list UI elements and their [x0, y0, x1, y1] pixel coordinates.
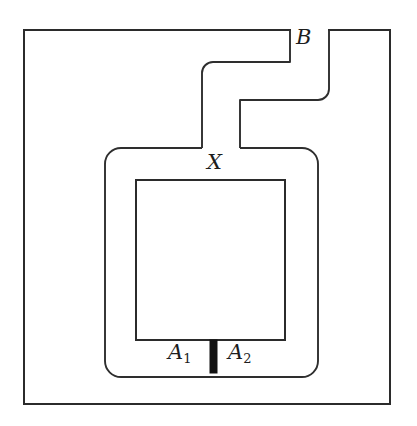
region-label-a1-text: A: [168, 340, 183, 364]
inner-rectangle-path: [136, 180, 285, 340]
figure-canvas: B X A1 A2: [0, 0, 417, 426]
region-label-b-text: B: [296, 25, 311, 49]
region-label-a2-text: A: [228, 340, 243, 364]
lower-arm-path: [240, 30, 329, 148]
diagram-svg: [0, 0, 417, 426]
region-label-a2: A2: [228, 342, 251, 363]
upper-arm-path: [202, 30, 290, 148]
region-label-b: B: [296, 27, 311, 48]
region-label-a1-subscript: 1: [183, 351, 191, 366]
outer-boundary-path: [24, 30, 390, 404]
region-label-a1: A1: [168, 342, 191, 363]
separating-bar: [210, 340, 217, 373]
region-label-x-text: X: [207, 150, 222, 174]
region-label-x: X: [207, 152, 222, 173]
region-label-a2-subscript: 2: [243, 351, 251, 366]
